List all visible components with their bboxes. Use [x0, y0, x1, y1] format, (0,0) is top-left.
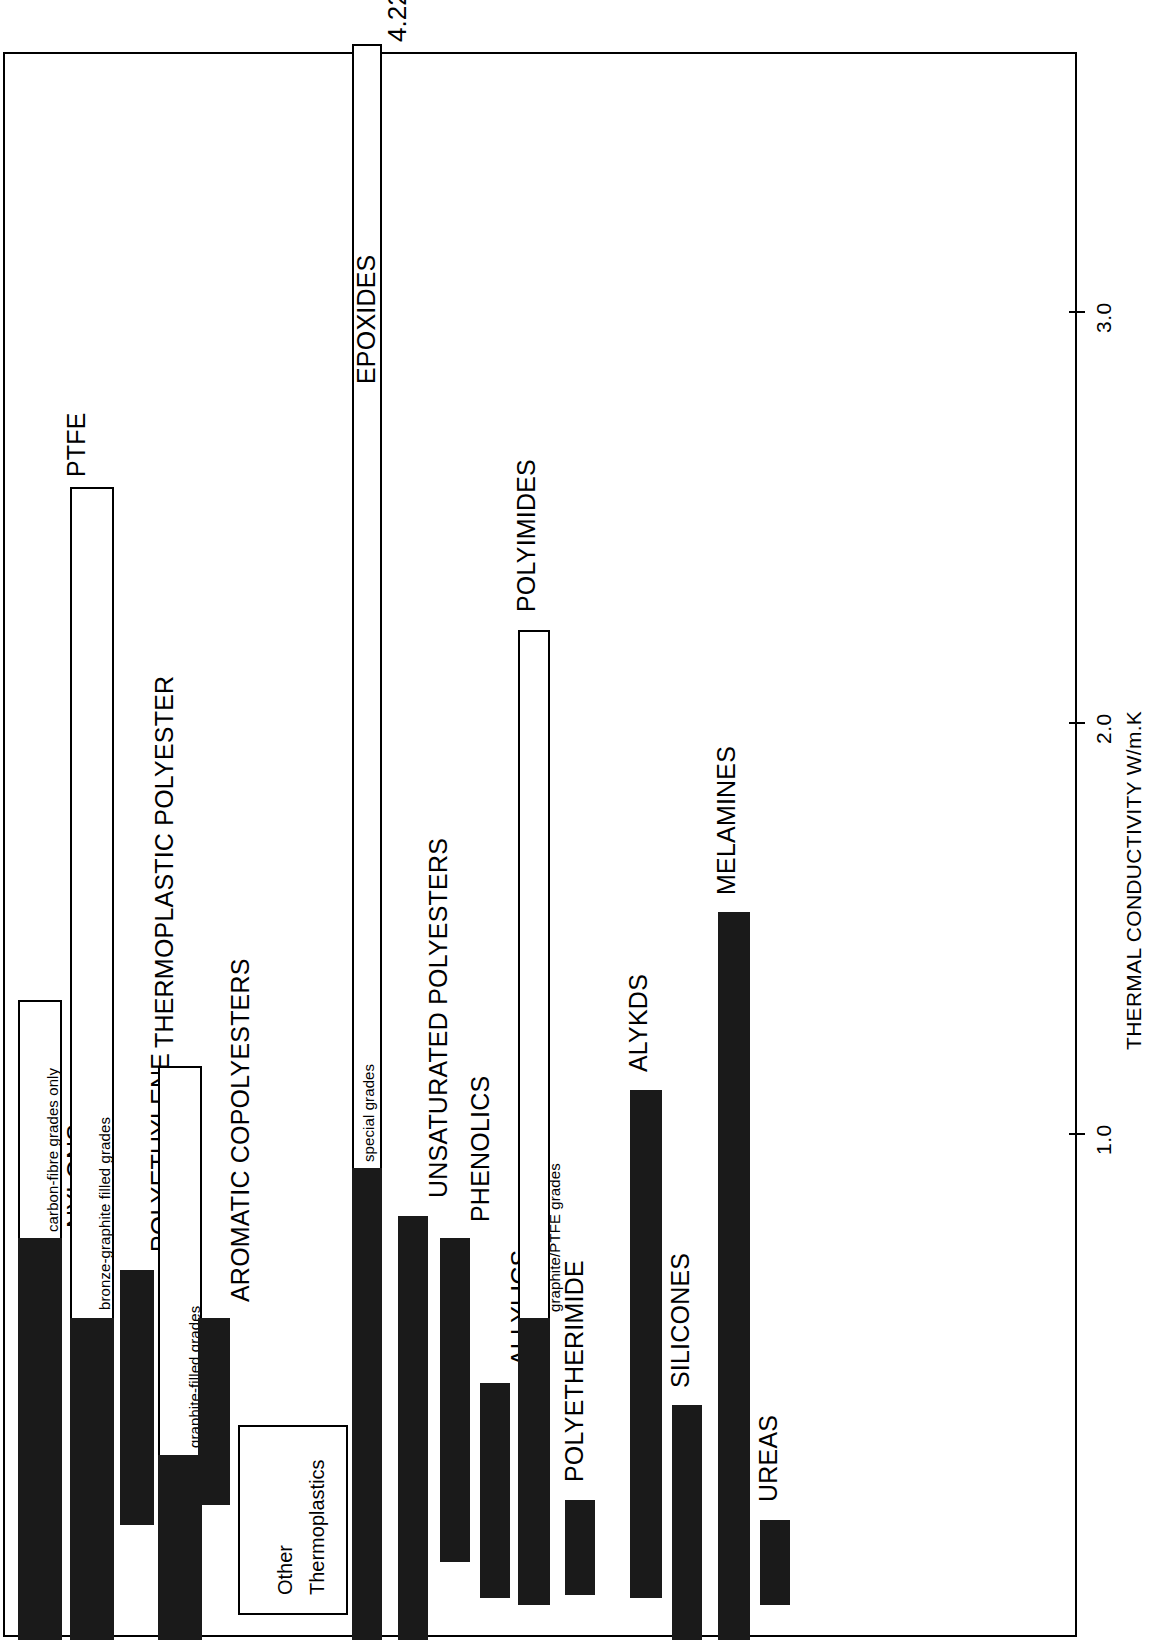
bar-segment-standard-grades [760, 1520, 790, 1605]
bar-aromatic-copolyesters[interactable] [198, 0, 230, 1640]
bar-allylics[interactable] [480, 0, 510, 1640]
bar-label: AROMATIC COPOLYESTERS [226, 958, 255, 1302]
bar-segment-standard-grades [630, 1090, 662, 1598]
bar-epoxides[interactable] [352, 0, 382, 1640]
bar-nylons[interactable] [18, 0, 62, 1640]
bar-segment-standard-grades [198, 1318, 230, 1505]
axis-tick-label: 1.0 [1092, 1124, 1116, 1155]
bar-label: POLYIMIDES [512, 459, 541, 612]
other-thermoplastics-box: Other Thermoplastics [238, 1425, 348, 1615]
bar-segment-standard-grades [518, 1318, 550, 1605]
bar-label: ALYKDS [624, 974, 653, 1072]
peak-value-annotation: 4.22 [382, 0, 413, 42]
axis-tick-mark [1069, 311, 1085, 313]
bar-segment-standard-grades [398, 1216, 428, 1640]
bar-phenolics[interactable] [440, 0, 470, 1640]
bar-segment-standard-grades [158, 1455, 202, 1640]
bar-segment-standard-grades [70, 1318, 114, 1640]
bar-label: EPOXIDES [352, 255, 381, 384]
bar-segment-standard-grades [672, 1405, 702, 1640]
bar-alykds[interactable] [630, 0, 662, 1640]
axis-title: THERMAL CONDUCTIVITY W/m.K [1122, 711, 1146, 1050]
bar-label: PTFE [62, 412, 91, 477]
bar-ureas[interactable] [760, 0, 790, 1640]
bar-segment-standard-grades [18, 1238, 62, 1640]
bar-label: THERMOPLASTIC POLYESTER [150, 676, 179, 1048]
bar-label: MELAMINES [712, 746, 741, 895]
bar-silicones[interactable] [672, 0, 702, 1640]
bar-segment-standard-grades [480, 1383, 510, 1598]
bar-polyimides[interactable] [518, 0, 550, 1640]
group-box-line-2: Thermoplastics [306, 1459, 329, 1595]
axis-tick-mark [1069, 1133, 1085, 1135]
bar-polyethylene[interactable] [120, 0, 154, 1640]
bar-ptfe[interactable] [70, 0, 114, 1640]
bar-unsaturated-polyesters[interactable] [398, 0, 428, 1640]
bar-label: POLYETHERIMIDE [560, 1260, 589, 1482]
bar-segment-standard-grades [718, 912, 750, 1640]
chart-canvas: 1.02.03.0 NYLONScarbon-fibre grades only… [0, 0, 1154, 1640]
bar-label: UREAS [754, 1415, 783, 1502]
bar-sub-label: special grades [360, 1064, 377, 1162]
bar-label: SILICONES [666, 1253, 695, 1388]
bar-segment-standard-grades [120, 1270, 154, 1525]
bar-segment-standard-grades [565, 1500, 595, 1595]
axis-tick-label: 2.0 [1092, 713, 1116, 744]
bar-segment-standard-grades [352, 1168, 382, 1640]
group-box-line-1: Other [274, 1545, 297, 1595]
bar-sub-label: carbon-fibre grades only [44, 1068, 61, 1232]
bar-segment-standard-grades [440, 1238, 470, 1562]
axis-tick-mark [1069, 722, 1085, 724]
axis-tick-label: 3.0 [1092, 302, 1116, 333]
bar-sub-label: bronze-graphite filled grades [96, 1117, 113, 1310]
bar-segment-special-grades [352, 44, 382, 1170]
